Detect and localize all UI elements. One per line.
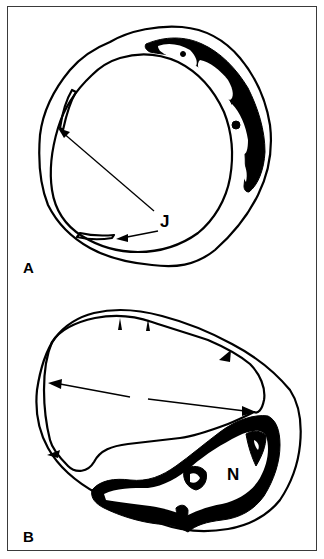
panel-b-arrowhead-3 [219, 350, 231, 362]
figure-illustration [0, 0, 324, 559]
panel-b-arrowhead-1 [118, 318, 122, 330]
panel-a-annotation-j: J [160, 212, 169, 232]
panel-b-double-arrow-right [148, 399, 245, 411]
panel-a-drawing [39, 27, 271, 267]
panel-b-label: B [23, 528, 34, 545]
panel-b-double-arrowhead-left [48, 379, 62, 389]
panel-a-dark-crescent [145, 38, 265, 192]
panel-a-fold-left [60, 90, 76, 130]
panel-b-drawing [36, 310, 300, 532]
panel-b-double-arrow-left [60, 384, 130, 397]
panel-b-annotation-n: N [227, 465, 239, 485]
panel-a-inner-contour [51, 55, 232, 252]
panel-a-label: A [23, 259, 34, 276]
panel-a-j-arrowhead-lower [116, 234, 128, 242]
panel-a-j-arrow-upper [62, 132, 154, 211]
